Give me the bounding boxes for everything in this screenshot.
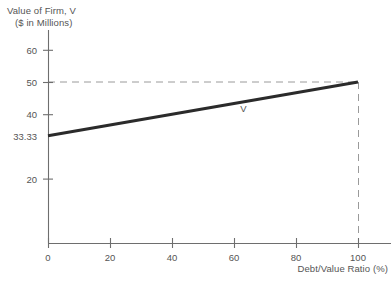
y-axis-tick-label: 33.33 [0,130,37,141]
x-axis-tick-label: 20 [105,252,116,263]
x-axis-tick-label: 40 [167,252,178,263]
series-line-v [48,82,358,136]
reference-lines-group [48,82,359,243]
x-axis-tick-label: 0 [45,252,50,263]
x-axis-tick-label: 80 [291,252,302,263]
y-axis-tick-label: 20 [0,173,37,184]
y-axis-tick-label: 60 [0,44,37,55]
series-label-v: V [240,102,246,113]
x-axis-tick-label: 100 [350,252,366,263]
axes-group [48,30,391,244]
chart-plot-area [0,0,391,287]
y-axis-tick-label: 50 [0,77,37,88]
data-series-group [48,82,358,136]
x-axis-tick-label: 60 [229,252,240,263]
chart-figure: Value of Firm, V ($ in Millions) Debt/Va… [0,0,391,287]
y-axis-tick-label: 40 [0,109,37,120]
